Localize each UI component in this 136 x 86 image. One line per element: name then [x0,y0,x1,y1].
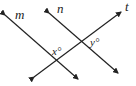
line-m [5,15,78,79]
label-t: t [125,0,129,14]
label-m: m [15,7,24,22]
angle-y-label: y° [89,36,100,48]
line-t [34,12,121,77]
angle-x-label: x° [51,45,62,57]
label-n: n [57,1,64,16]
diagram-canvas: m n t x° y° [0,0,136,86]
